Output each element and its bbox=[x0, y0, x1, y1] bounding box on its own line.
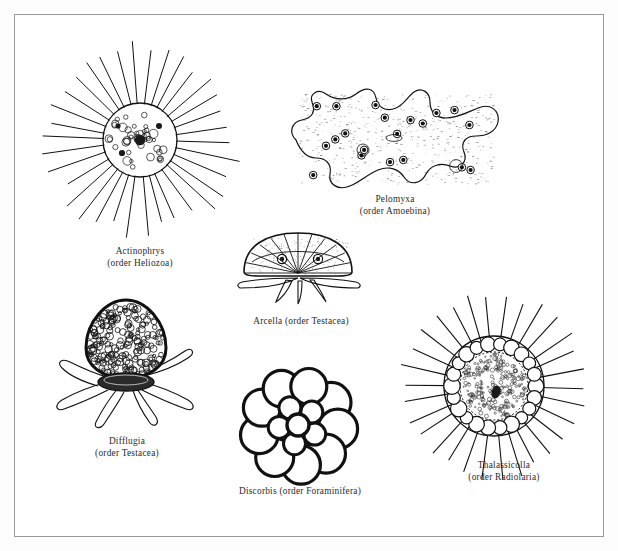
discorbis-proloculus bbox=[287, 414, 309, 436]
caption-pelomyxa-order: (order Amoebina) bbox=[320, 206, 470, 218]
caption-arcella-text: Arcella (order Testacea) bbox=[253, 316, 349, 326]
figure-pelomyxa bbox=[278, 78, 512, 202]
arcella-pseudopodia bbox=[238, 278, 360, 304]
figure-difflugia bbox=[48, 292, 208, 428]
caption-actinophrys-order: (order Heliozoa) bbox=[60, 258, 220, 270]
caption-actinophrys-genus: Actinophrys bbox=[116, 246, 165, 256]
caption-discorbis: Discorbis (order Foraminifera) bbox=[208, 486, 392, 498]
illustration-plate: Actinophrys (order Heliozoa) Pelomyxa (o… bbox=[0, 0, 618, 551]
figure-discorbis bbox=[236, 366, 360, 484]
pelomyxa-outline bbox=[292, 89, 499, 188]
caption-thalassicolla: Thalassicolla (order Radiolaria) bbox=[424, 460, 584, 483]
arcella-drawing bbox=[226, 226, 376, 306]
caption-discorbis-text: Discorbis (order Foraminifera) bbox=[239, 486, 361, 496]
figure-thalassicolla bbox=[396, 288, 592, 484]
discorbis-drawing bbox=[236, 366, 360, 484]
figure-arcella bbox=[226, 226, 376, 306]
thalassicolla-drawing bbox=[396, 288, 592, 484]
arcella-nucleus-left bbox=[280, 257, 284, 261]
difflugia-drawing bbox=[48, 292, 208, 428]
actinophrys-nucleus bbox=[135, 135, 145, 145]
pelomyxa-drawing bbox=[278, 78, 512, 202]
caption-difflugia-order: (order Testacea) bbox=[52, 448, 202, 460]
caption-difflugia: Difflugia (order Testacea) bbox=[52, 436, 202, 459]
caption-thalassicolla-order: (order Radiolaria) bbox=[424, 472, 584, 484]
caption-pelomyxa: Pelomyxa (order Amoebina) bbox=[320, 194, 470, 217]
caption-pelomyxa-genus: Pelomyxa bbox=[375, 194, 414, 204]
caption-actinophrys: Actinophrys (order Heliozoa) bbox=[60, 246, 220, 269]
arcella-nucleus-right bbox=[316, 257, 320, 261]
caption-arcella: Arcella (order Testacea) bbox=[216, 316, 386, 328]
caption-thalassicolla-genus: Thalassicolla bbox=[478, 460, 530, 470]
actinophrys-drawing bbox=[40, 40, 240, 240]
caption-difflugia-genus: Difflugia bbox=[109, 436, 145, 446]
figure-actinophrys bbox=[40, 40, 240, 240]
